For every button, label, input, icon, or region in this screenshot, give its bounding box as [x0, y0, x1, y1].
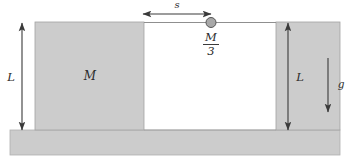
ball-mass-numerator-label: M — [204, 30, 218, 44]
ball-mass-denominator-label: 3 — [207, 44, 214, 58]
left-height-label: L — [6, 70, 15, 84]
ground-slab — [10, 130, 340, 155]
ball-mass-third — [206, 18, 216, 28]
s-label: s — [174, 0, 179, 10]
block-mass-label: M — [83, 69, 97, 83]
diagram-canvas: s M 3 M L L g — [0, 0, 362, 161]
right-height-label: L — [295, 70, 304, 84]
right-wall-region — [276, 22, 340, 130]
physics-diagram: s M 3 M L L g — [0, 0, 362, 161]
gravity-label: g — [338, 78, 345, 90]
